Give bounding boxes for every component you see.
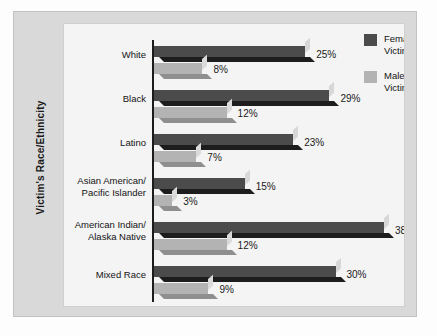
bar-face xyxy=(154,46,305,57)
bar-face xyxy=(154,222,384,233)
bar-cap-3d xyxy=(202,55,207,70)
bar-value-label: 7% xyxy=(207,152,221,163)
bar-face xyxy=(154,134,293,145)
bar-shadow-3d xyxy=(159,145,303,150)
bar-shadow-3d xyxy=(159,250,237,255)
bar-shadow-3d xyxy=(159,57,315,62)
category-label: Latino xyxy=(63,137,146,149)
bar-face xyxy=(154,90,329,101)
bar-male xyxy=(154,63,202,74)
bar-male xyxy=(154,151,196,162)
category-label: Mixed Race xyxy=(63,269,146,281)
bar-male xyxy=(154,195,172,206)
bar-face xyxy=(154,107,227,118)
bar-shadow-3d xyxy=(159,277,346,282)
bar-cap-3d xyxy=(293,126,298,141)
bar-value-label: 29% xyxy=(340,93,360,104)
bar-cap-3d xyxy=(329,82,334,97)
chart-figure: Victim's Race/Ethnicity White25%8%Black2… xyxy=(13,11,417,317)
category-label: White xyxy=(63,49,146,61)
bar-value-label: 12% xyxy=(238,108,258,119)
bar-value-label: 9% xyxy=(219,284,233,295)
bar-value-label: 12% xyxy=(238,240,258,251)
chart-legend: Female VictimsMale Victims xyxy=(364,33,405,107)
bar-cap-3d xyxy=(305,38,310,53)
bar-cap-3d xyxy=(208,275,213,290)
bar-male xyxy=(154,239,227,250)
bar-female xyxy=(154,222,384,233)
bar-face xyxy=(154,178,245,189)
legend-swatch-male xyxy=(364,71,377,83)
category-label: American Indian/ Alaska Native xyxy=(63,219,146,242)
legend-item-female: Female Victims xyxy=(364,33,405,56)
bar-female xyxy=(154,178,245,189)
legend-label: Female Victims xyxy=(384,33,405,56)
bar-cap-3d xyxy=(384,214,389,229)
bar-male xyxy=(154,283,208,294)
bar-shadow-3d xyxy=(159,74,212,79)
legend-label: Male Victims xyxy=(384,70,405,93)
bar-cap-3d xyxy=(227,231,232,246)
bar-shadow-3d xyxy=(159,233,394,238)
bar-shadow-3d xyxy=(159,162,206,167)
bar-female xyxy=(154,90,329,101)
bar-value-label: 23% xyxy=(304,137,324,148)
y-axis-line xyxy=(152,40,154,302)
bar-face xyxy=(154,151,196,162)
bar-face xyxy=(154,266,336,277)
bar-female xyxy=(154,134,293,145)
bar-cap-3d xyxy=(196,143,201,158)
bar-face xyxy=(154,283,208,294)
bar-face xyxy=(154,239,227,250)
bar-cap-3d xyxy=(172,187,177,202)
bar-value-label: 8% xyxy=(213,64,227,75)
bar-cap-3d xyxy=(227,99,232,114)
bar-face xyxy=(154,63,202,74)
bar-value-label: 25% xyxy=(316,49,336,60)
bar-female xyxy=(154,46,305,57)
category-label: Black xyxy=(63,93,146,105)
legend-swatch-female xyxy=(364,34,377,46)
category-label: Asian American/ Pacific Islander xyxy=(63,175,146,198)
bar-face xyxy=(154,195,172,206)
bar-value-label: 38% xyxy=(395,225,405,236)
bar-shadow-3d xyxy=(159,118,237,123)
bar-male xyxy=(154,107,227,118)
bar-shadow-3d xyxy=(159,294,218,299)
bar-value-label: 15% xyxy=(256,181,276,192)
bar-cap-3d xyxy=(245,170,250,185)
bar-cap-3d xyxy=(336,258,341,273)
bar-shadow-3d xyxy=(159,206,182,211)
bar-female xyxy=(154,266,336,277)
bar-value-label: 30% xyxy=(347,269,367,280)
y-axis-title: Victim's Race/Ethnicity xyxy=(35,58,46,258)
plot-area: White25%8%Black29%12%Latino23%7%Asian Am… xyxy=(63,23,405,307)
bar-value-label: 3% xyxy=(183,196,197,207)
bar-shadow-3d xyxy=(159,101,339,106)
legend-item-male: Male Victims xyxy=(364,70,405,93)
